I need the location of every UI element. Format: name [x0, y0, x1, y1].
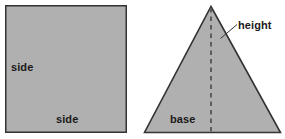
square-side-label-left: side: [11, 62, 33, 73]
triangle-base-label: base: [170, 114, 195, 125]
triangle-height-label: height: [238, 20, 272, 31]
square-side-label-bottom: side: [56, 114, 78, 125]
geometry-figure: side side base height: [0, 0, 285, 139]
